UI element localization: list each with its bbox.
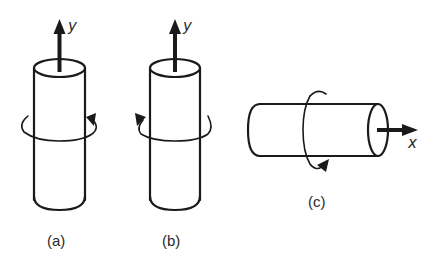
axis-label-x-c: x [407, 134, 417, 152]
panel-label-b: (b) [162, 232, 180, 249]
cylinder-b [150, 59, 200, 210]
panel-b: y (b) [135, 17, 211, 249]
rotation-diagram: y (a) y (b) [0, 0, 438, 257]
cylinder-c [248, 104, 388, 156]
panel-a: y (a) [22, 17, 97, 249]
axis-label-y-a: y [67, 17, 78, 35]
panel-label-c: (c) [308, 193, 326, 210]
axis-label-y-b: y [182, 17, 193, 35]
panel-label-a: (a) [47, 232, 65, 249]
panel-c: x (c) [248, 91, 418, 210]
cylinder-a [34, 59, 85, 210]
